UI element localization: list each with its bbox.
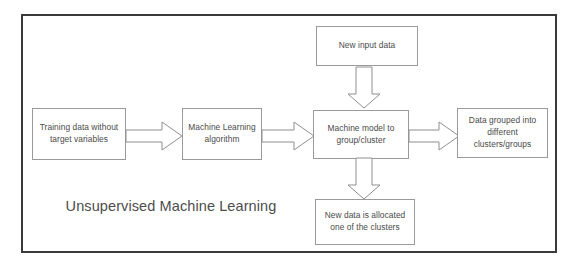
node-ml-algorithm-label: Machine Learning algorithm bbox=[186, 122, 258, 146]
node-new-input-data: New input data bbox=[316, 26, 418, 66]
node-ml-algorithm: Machine Learning algorithm bbox=[182, 108, 262, 160]
node-data-grouped-label: Data grouped into different clusters/gro… bbox=[461, 115, 544, 151]
node-training-data-label: Training data without target variables bbox=[36, 122, 122, 146]
node-training-data: Training data without target variables bbox=[32, 108, 126, 160]
node-new-data-allocated: New data is allocated one of the cluster… bbox=[315, 199, 415, 245]
node-machine-model: Machine model to group/cluster bbox=[313, 110, 409, 159]
diagram-outer-frame: Training data without target variables M… bbox=[21, 14, 557, 253]
arrow-algorithm-to-model bbox=[262, 121, 315, 151]
arrow-input-to-model bbox=[347, 67, 381, 109]
node-data-grouped: Data grouped into different clusters/gro… bbox=[457, 108, 548, 158]
node-new-input-data-label: New input data bbox=[320, 40, 414, 52]
arrow-model-to-grouped bbox=[409, 121, 460, 151]
diagram-canvas: Training data without target variables M… bbox=[0, 0, 575, 267]
node-new-data-allocated-label: New data is allocated one of the cluster… bbox=[319, 210, 411, 234]
node-machine-model-label: Machine model to group/cluster bbox=[317, 123, 405, 147]
diagram-title: Unsupervised Machine Learning bbox=[46, 198, 296, 214]
arrow-model-to-allocated bbox=[347, 158, 381, 200]
arrow-training-to-algorithm bbox=[126, 121, 183, 151]
